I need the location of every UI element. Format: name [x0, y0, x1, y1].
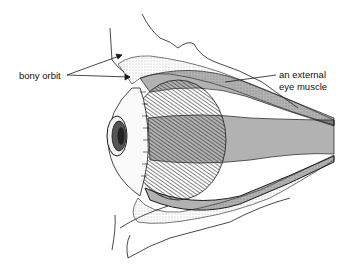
eye-anatomy-figure: bony orbit an external eye muscle [0, 0, 354, 266]
lateral-rectus-muscle [148, 115, 334, 163]
eye-illustration [0, 0, 354, 266]
label-external-eye-muscle-line1: an external [279, 69, 326, 80]
label-external-eye-muscle-line2: eye muscle [279, 81, 327, 92]
pupil [118, 127, 125, 145]
label-bony-orbit: bony orbit [19, 70, 61, 81]
